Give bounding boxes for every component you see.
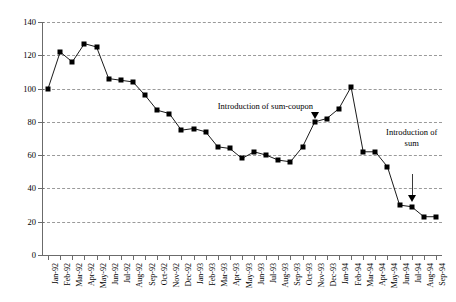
x-tick-label-Jun-93: Jun-93 <box>258 263 266 285</box>
x-tick-label-Sep-93: Sep-93 <box>294 263 302 286</box>
data-point-Dec-92 <box>179 128 184 133</box>
x-tick-Feb-93 <box>206 256 207 260</box>
data-point-Nov-92 <box>167 111 172 116</box>
x-tick-label-Nov-92: Nov-92 <box>173 263 181 287</box>
x-tick-Nov-92 <box>169 256 170 260</box>
x-tick-Jan-94 <box>339 256 340 260</box>
y-tick-140 <box>38 22 44 23</box>
data-point-Sep-92 <box>143 93 148 98</box>
x-tick-Jul-94 <box>412 256 413 260</box>
x-tick-label-Sep-92: Sep-92 <box>149 263 157 286</box>
x-tick-Dec-92 <box>181 256 182 260</box>
x-tick-label-Jan-93: Jan-93 <box>197 263 205 284</box>
x-axis: Jan-92Feb-92Mar-92Apr-92May-92Jun-92Jul-… <box>42 255 442 256</box>
data-point-Aug-93 <box>276 158 281 163</box>
x-tick-Apr-93 <box>230 256 231 260</box>
y-tick-80 <box>38 122 44 123</box>
x-tick-label-Mar-94: Mar-94 <box>367 263 375 287</box>
data-point-Feb-92 <box>58 49 63 54</box>
x-tick-label-Apr-92: Apr-92 <box>88 263 96 286</box>
x-tick-label-Oct-92: Oct-92 <box>161 263 169 285</box>
y-tick-20 <box>38 222 44 223</box>
x-tick-Aug-94 <box>424 256 425 260</box>
x-tick-label-Nov-93: Nov-93 <box>318 263 326 287</box>
y-tick-60 <box>38 155 44 156</box>
data-point-Dec-93 <box>324 116 329 121</box>
x-tick-Feb-94 <box>351 256 352 260</box>
x-tick-Jun-93 <box>254 256 255 260</box>
data-point-Apr-92 <box>82 41 87 46</box>
x-tick-Mar-93 <box>218 256 219 260</box>
data-point-Jan-92 <box>46 86 51 91</box>
x-tick-label-Aug-94: Aug-94 <box>427 263 435 287</box>
x-tick-label-May-93: May-93 <box>246 263 254 288</box>
x-tick-label-Oct-93: Oct-93 <box>306 263 314 285</box>
annotation-sum-arrow-head <box>408 195 416 202</box>
x-tick-label-Jul-94: Jul-94 <box>415 263 423 283</box>
x-tick-Jan-93 <box>194 256 195 260</box>
x-tick-label-May-94: May-94 <box>391 263 399 288</box>
data-point-Oct-92 <box>155 108 160 113</box>
x-tick-label-Feb-93: Feb-93 <box>209 263 217 286</box>
x-tick-label-Dec-93: Dec-93 <box>330 263 338 287</box>
x-tick-label-Jul-92: Jul-92 <box>124 263 132 283</box>
x-tick-Dec-93 <box>327 256 328 260</box>
data-point-Feb-93 <box>203 129 208 134</box>
x-tick-Nov-93 <box>315 256 316 260</box>
x-tick-label-Apr-93: Apr-93 <box>233 263 241 286</box>
data-point-Mar-94 <box>361 149 366 154</box>
x-tick-Jan-92 <box>48 256 49 260</box>
x-tick-label-Jun-94: Jun-94 <box>403 263 411 285</box>
y-tick-label-120: 120 <box>23 51 36 60</box>
x-tick-Aug-93 <box>278 256 279 260</box>
y-tick-label-40: 40 <box>28 184 37 193</box>
x-tick-Jun-94 <box>400 256 401 260</box>
data-point-Aug-94 <box>421 214 426 219</box>
x-tick-Sep-92 <box>145 256 146 260</box>
x-tick-label-Jun-92: Jun-92 <box>112 263 120 285</box>
data-point-May-92 <box>94 44 99 49</box>
data-point-Jun-94 <box>397 203 402 208</box>
x-tick-label-Mar-92: Mar-92 <box>76 263 84 287</box>
x-tick-Jul-92 <box>121 256 122 260</box>
data-point-Sep-94 <box>433 214 438 219</box>
data-point-May-93 <box>240 156 245 161</box>
annotation-sum-arrow-shaft <box>412 174 413 196</box>
x-tick-Oct-92 <box>157 256 158 260</box>
y-tick-label-140: 140 <box>23 18 36 27</box>
data-point-Jul-92 <box>118 78 123 83</box>
x-tick-label-May-92: May-92 <box>100 263 108 288</box>
x-tick-Sep-94 <box>436 256 437 260</box>
y-tick-40 <box>38 188 44 189</box>
x-tick-label-Mar-93: Mar-93 <box>221 263 229 287</box>
y-tick-100 <box>38 89 44 90</box>
y-axis: 020406080100120140 <box>42 22 43 255</box>
x-tick-Aug-92 <box>133 256 134 260</box>
data-point-Jan-94 <box>336 106 341 111</box>
annotation-sum-label: Introduction of sum <box>373 127 451 149</box>
x-tick-Apr-94 <box>375 256 376 260</box>
y-tick-label-80: 80 <box>28 118 37 127</box>
x-tick-Oct-93 <box>303 256 304 260</box>
x-tick-May-94 <box>387 256 388 260</box>
data-point-Jul-93 <box>264 153 269 158</box>
annotation-sum-coupon-label: Introduction of sum-coupon <box>218 101 313 112</box>
x-tick-label-Jan-92: Jan-92 <box>52 263 60 284</box>
x-tick-label-Dec-92: Dec-92 <box>185 263 193 287</box>
data-point-Apr-94 <box>373 149 378 154</box>
data-point-Oct-93 <box>300 144 305 149</box>
x-tick-label-Feb-92: Feb-92 <box>64 263 72 286</box>
data-point-Mar-93 <box>215 144 220 149</box>
x-tick-Sep-93 <box>290 256 291 260</box>
x-tick-label-Jul-93: Jul-93 <box>270 263 278 283</box>
data-point-Jun-93 <box>252 149 257 154</box>
data-point-Feb-94 <box>349 84 354 89</box>
annotation-sum-line2: sum <box>405 138 419 148</box>
x-tick-May-93 <box>242 256 243 260</box>
y-tick-label-60: 60 <box>28 151 37 160</box>
data-point-Jul-94 <box>409 204 414 209</box>
x-tick-Jul-93 <box>266 256 267 260</box>
line-chart: 020406080100120140 Jan-92Feb-92Mar-92Apr… <box>0 0 456 302</box>
data-point-Nov-93 <box>312 119 317 124</box>
x-tick-label-Feb-94: Feb-94 <box>355 263 363 286</box>
